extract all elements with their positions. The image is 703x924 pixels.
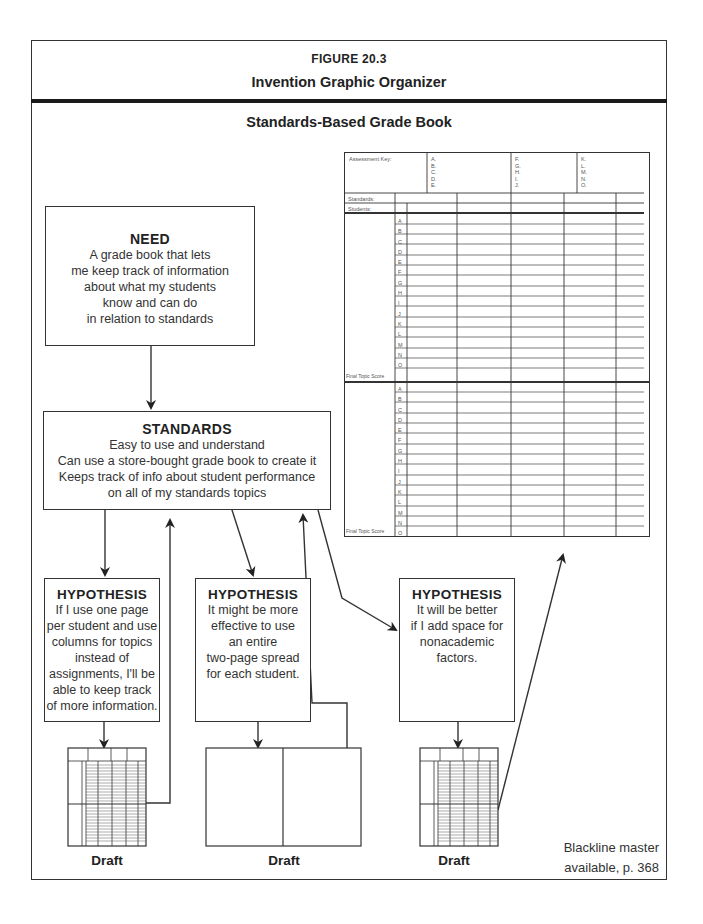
- standards-row-label: Standards:: [348, 196, 375, 202]
- hypothesis-line: an entire: [196, 634, 310, 650]
- standards-line: Can use a store-bought grade book to cre…: [44, 453, 330, 469]
- key-group-3: K.L.M.N.O.: [581, 156, 589, 189]
- need-line: in relation to standards: [46, 311, 254, 327]
- hypothesis-title: HYPOTHESIS: [45, 587, 159, 602]
- hypothesis-line: per student and use: [45, 618, 159, 634]
- need-line: me keep track of information: [46, 263, 254, 279]
- need-title: NEED: [46, 231, 254, 247]
- draft-label-1: Draft: [62, 853, 152, 868]
- hypothesis-box-1: HYPOTHESIS If I use one page per student…: [44, 578, 160, 722]
- hypothesis-title: HYPOTHESIS: [400, 587, 514, 602]
- hypothesis-line: if I add space for: [400, 618, 514, 634]
- need-line: A grade book that lets: [46, 247, 254, 263]
- students-row-label: Students:: [348, 206, 371, 212]
- hypothesis-line: assignments, I'll be: [45, 666, 159, 682]
- hypothesis-title: HYPOTHESIS: [196, 587, 310, 602]
- hypothesis-line: If I use one page: [45, 602, 159, 618]
- key-group-1: A.B.C.D.E.: [431, 156, 439, 189]
- need-line: about what my students: [46, 279, 254, 295]
- standards-gradebook-template: Assessment Key: A.B.C.D.E. F.G.H.I.J. K.…: [344, 152, 650, 537]
- standards-title: STANDARDS: [44, 421, 330, 437]
- hypothesis-line: It will be better: [400, 602, 514, 618]
- hypothesis-line: instead of: [45, 650, 159, 666]
- assessment-key-label: Assessment Key:: [349, 156, 392, 162]
- standards-line: Easy to use and understand: [44, 437, 330, 453]
- student-letters-top: ABCDEFGHIJKLMNO: [398, 216, 403, 370]
- hypothesis-line: able to keep track: [45, 682, 159, 698]
- student-letters-bottom: ABCDEFGHIJKLMNO: [398, 384, 403, 538]
- final-topic-score-label-1: Final Topic Score: [346, 373, 384, 379]
- hypothesis-line: columns for topics: [45, 634, 159, 650]
- hypothesis-line: effective to use: [196, 618, 310, 634]
- draft-label-2: Draft: [239, 853, 329, 868]
- standards-box: STANDARDS Easy to use and understand Can…: [43, 411, 331, 510]
- hypothesis-line: nonacademic: [400, 634, 514, 650]
- hypothesis-line: for each student.: [196, 666, 310, 682]
- hypothesis-box-3: HYPOTHESIS It will be better if I add sp…: [399, 578, 515, 722]
- hypothesis-line: It might be more: [196, 602, 310, 618]
- hypothesis-box-2: HYPOTHESIS It might be more effective to…: [195, 578, 311, 722]
- hypothesis-line: of more information.: [45, 698, 159, 714]
- hypothesis-line: factors.: [400, 650, 514, 666]
- blackline-master-note: Blackline master available, p. 368: [564, 838, 659, 878]
- need-line: know and can do: [46, 295, 254, 311]
- blackline-line-1: Blackline master: [564, 838, 659, 858]
- draft-label-3: Draft: [409, 853, 499, 868]
- need-box: NEED A grade book that lets me keep trac…: [45, 206, 255, 346]
- final-topic-score-label-2: Final Topic Score: [346, 528, 384, 534]
- standards-line: on all of my standards topics: [44, 485, 330, 501]
- blackline-line-2: available, p. 368: [564, 858, 659, 878]
- key-group-2: F.G.H.I.J.: [515, 156, 523, 189]
- standards-line: Keeps track of info about student perfor…: [44, 469, 330, 485]
- hypothesis-line: two-page spread: [196, 650, 310, 666]
